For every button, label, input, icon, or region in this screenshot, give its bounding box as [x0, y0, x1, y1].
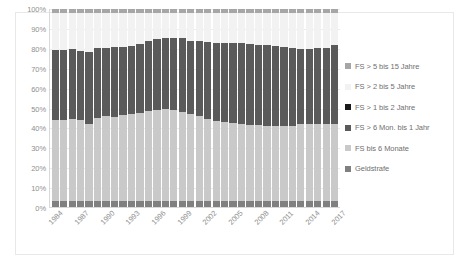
bar-segment — [272, 46, 279, 126]
legend-swatch-icon — [345, 63, 351, 69]
table-row[interactable] — [77, 9, 84, 207]
table-row[interactable] — [272, 9, 279, 207]
bar-segment — [102, 13, 109, 48]
table-row[interactable] — [60, 9, 67, 207]
bar-segment — [229, 43, 236, 123]
bar-segment — [69, 13, 76, 49]
table-row[interactable] — [246, 9, 253, 207]
bar-segment — [221, 43, 228, 122]
bar-segment — [128, 201, 135, 207]
table-row[interactable] — [323, 9, 330, 207]
table-row[interactable] — [162, 9, 169, 207]
table-row[interactable] — [204, 9, 211, 207]
x-axis-tick: 2005 — [227, 209, 245, 227]
table-row[interactable] — [196, 9, 203, 207]
bar-segment — [331, 201, 338, 207]
bar-segment — [323, 48, 330, 124]
legend-item[interactable]: FS > 6 Mon. bis 1 Jahr — [345, 118, 457, 139]
table-row[interactable] — [145, 9, 152, 207]
legend-item[interactable]: FS > 5 bis 15 Jahre — [345, 56, 457, 77]
legend-item-label: FS > 1 bis 2 Jahre — [355, 103, 415, 112]
bar-segment — [52, 13, 59, 50]
bar-segment — [213, 43, 220, 121]
bar-segment — [297, 124, 304, 201]
bar-segment — [179, 13, 186, 38]
bar-segment — [111, 13, 118, 47]
table-row[interactable] — [306, 9, 313, 207]
table-row[interactable] — [263, 9, 270, 207]
legend-item[interactable]: FS > 2 bis 5 Jahre — [345, 77, 457, 98]
table-row[interactable] — [136, 9, 143, 207]
table-row[interactable] — [111, 9, 118, 207]
bar-segment — [77, 51, 84, 120]
table-row[interactable] — [213, 9, 220, 207]
bar-segment — [238, 201, 245, 207]
table-row[interactable] — [85, 9, 92, 207]
bar-segment — [213, 121, 220, 201]
bar-segment — [246, 201, 253, 207]
bar-segment — [179, 201, 186, 207]
bar-segment — [280, 13, 287, 47]
legend-item[interactable]: Geldstrafe — [345, 159, 457, 180]
bar-segment — [246, 13, 253, 44]
table-row[interactable] — [289, 9, 296, 207]
bar-segment — [246, 44, 253, 125]
table-row[interactable] — [179, 9, 186, 207]
table-row[interactable] — [128, 9, 135, 207]
bar-segment — [280, 201, 287, 207]
table-row[interactable] — [314, 9, 321, 207]
bar-segment — [289, 13, 296, 48]
bar-segment — [136, 113, 143, 201]
bar-segment — [119, 13, 126, 47]
table-row[interactable] — [280, 9, 287, 207]
bar-segment — [187, 201, 194, 207]
bar-segment — [145, 41, 152, 110]
bar-segment — [255, 201, 262, 207]
bar-segment — [297, 201, 304, 207]
bar-segment — [280, 126, 287, 201]
bar-segment — [52, 50, 59, 120]
table-row[interactable] — [187, 9, 194, 207]
legend-swatch-icon — [345, 84, 351, 90]
bar-segment — [170, 201, 177, 207]
bar-segment — [85, 52, 92, 124]
bar-segment — [153, 201, 160, 207]
bar-segment — [111, 117, 118, 201]
legend-swatch-icon — [345, 104, 351, 110]
bar-segment — [272, 201, 279, 207]
bar-segment — [102, 201, 109, 207]
bar-segment — [323, 13, 330, 48]
y-axis-tick: 0% — [35, 204, 46, 213]
table-row[interactable] — [297, 9, 304, 207]
table-row[interactable] — [102, 9, 109, 207]
x-axis-tick: 1999 — [175, 209, 193, 227]
legend-swatch-icon — [345, 125, 351, 131]
table-row[interactable] — [255, 9, 262, 207]
table-row[interactable] — [170, 9, 177, 207]
chart-screenshot: 100%90%80%70%60%50%40%30%20%10%0% 198419… — [0, 0, 469, 271]
bar-segment — [238, 124, 245, 201]
bar-segment — [69, 119, 76, 201]
y-axis: 100%90%80%70%60%50%40%30%20%10%0% — [20, 9, 49, 208]
table-row[interactable] — [69, 9, 76, 207]
bar-segment — [314, 13, 321, 48]
table-row[interactable] — [238, 9, 245, 207]
table-row[interactable] — [331, 9, 338, 207]
bar-group — [50, 9, 340, 207]
legend-item[interactable]: FS bis 6 Monate — [345, 138, 457, 159]
x-axis-tick: 1993 — [124, 209, 142, 227]
bar-segment — [289, 201, 296, 207]
bar-segment — [221, 122, 228, 201]
table-row[interactable] — [94, 9, 101, 207]
table-row[interactable] — [119, 9, 126, 207]
legend-item[interactable]: FS > 1 bis 2 Jahre — [345, 97, 457, 118]
bar-segment — [238, 13, 245, 43]
table-row[interactable] — [229, 9, 236, 207]
table-row[interactable] — [153, 9, 160, 207]
table-row[interactable] — [221, 9, 228, 207]
bar-segment — [246, 125, 253, 201]
bar-segment — [69, 201, 76, 207]
bar-segment — [145, 111, 152, 201]
table-row[interactable] — [52, 9, 59, 207]
bar-segment — [196, 201, 203, 207]
